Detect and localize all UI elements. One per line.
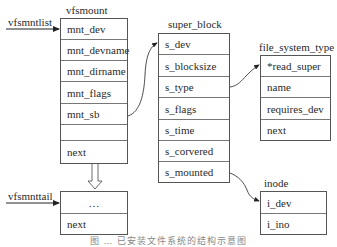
next-hollow-arrow xyxy=(88,163,102,189)
figure-caption: 图 … 已安装文件系统的结构示意图 xyxy=(0,234,337,247)
field-s-time: s_time xyxy=(159,120,229,141)
field-next: next xyxy=(61,141,127,163)
field-mnt-dirname: mnt_dirname xyxy=(61,61,127,82)
vfsmntlist-label: vfsmntlist xyxy=(8,16,52,28)
field-i-dev: i_dev xyxy=(261,192,326,214)
super-block-struct: s_dev s_blocksize s_type s_flags s_time … xyxy=(158,33,230,183)
vfsmount-title: vfsmount xyxy=(66,4,108,16)
field-mnt-sb: mnt_sb xyxy=(61,104,127,125)
field-s-mounted: s_mounted xyxy=(159,162,229,182)
field-read-super: *read_super xyxy=(261,56,330,77)
field-mnt-flags: mnt_flags xyxy=(61,82,127,104)
inode-struct: i_dev i_ino xyxy=(260,191,327,235)
field-empty xyxy=(61,125,127,141)
field-s-corvered: s_corvered xyxy=(159,141,229,162)
mnt-sb-to-super-block-arrow xyxy=(128,43,157,116)
field-mnt-dev: mnt_dev xyxy=(61,19,127,40)
s-mounted-to-inode-arrow xyxy=(230,173,259,201)
field-name: name xyxy=(261,77,330,98)
field-next: next xyxy=(261,120,330,140)
vfsmount-tail-struct: … next xyxy=(60,191,128,235)
field-s-flags: s_flags xyxy=(159,98,229,120)
s-type-to-file-system-type-arrow xyxy=(230,65,259,87)
file-system-type-title: file_system_type xyxy=(259,41,334,53)
field-i-ino: i_ino xyxy=(261,214,326,234)
field-s-blocksize: s_blocksize xyxy=(159,55,229,77)
inode-title: inode xyxy=(264,177,288,189)
vfsmount-struct: mnt_dev mnt_devname mnt_dirname mnt_flag… xyxy=(60,18,128,164)
field-s-dev: s_dev xyxy=(159,34,229,55)
field-mnt-devname: mnt_devname xyxy=(61,40,127,61)
field-next: next xyxy=(61,214,127,234)
field-requires-dev: requires_dev xyxy=(261,98,330,120)
field-s-type: s_type xyxy=(159,77,229,98)
field-ellipsis: … xyxy=(61,192,127,214)
file-system-type-struct: *read_super name requires_dev next xyxy=(260,55,331,141)
super-block-title: super_block xyxy=(168,18,222,30)
vfsmnttail-label: vfsmnttail xyxy=(8,190,53,202)
